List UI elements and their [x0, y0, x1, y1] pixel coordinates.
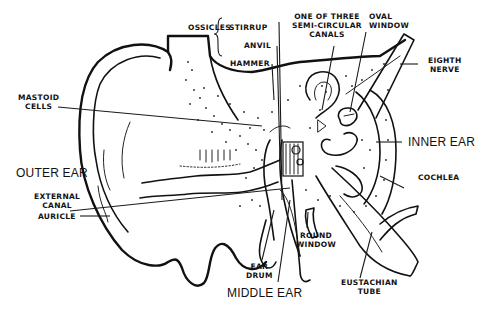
anvil-label: ANVIL [244, 41, 271, 50]
bone-stipple [185, 61, 389, 213]
ossicles-label: OSSICLES [188, 23, 231, 32]
hammer-label: HAMMER [230, 59, 270, 68]
eighth-nerve-label: EIGHTH NERVE [428, 56, 462, 74]
semicircular-canals-label: ONE OF THREE SEMI-CIRCULAR CANALS [292, 12, 362, 39]
stirrup-label: STIRRUP [229, 23, 268, 32]
eustachian-tube-shape [316, 168, 418, 276]
outer-ear-label: OUTER EAR [16, 167, 88, 180]
ear-anatomy-diagram: OSSICLES STIRRUP ANVIL HAMMER ONE OF THR… [0, 0, 496, 312]
middle-ear-label: MIDDLE EAR [227, 287, 302, 300]
oval-window-label: OVAL WINDOW [369, 12, 409, 30]
external-canal-label: EXTERNAL CANAL [34, 192, 80, 210]
auricle-shape [79, 36, 405, 286]
cochlea-label: COCHLEA [418, 173, 459, 182]
ear-drum-label: EAR DRUM [246, 262, 273, 280]
round-window-label: ROUND WINDOW [296, 231, 336, 249]
auricle-label: AURICLE [38, 212, 76, 221]
eustachian-tube-label: EUSTACHIAN TUBE [341, 278, 398, 296]
inner-ear-label: INNER EAR [408, 136, 475, 149]
middle-ear-shape [259, 126, 318, 282]
mastoid-cells-label: MASTOID CELLS [18, 93, 59, 111]
